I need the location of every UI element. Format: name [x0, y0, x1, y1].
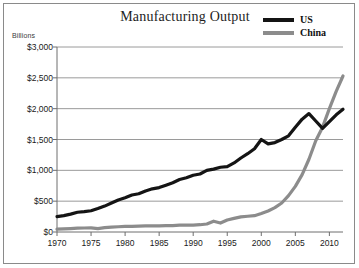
y-axis-units-label: Billions	[12, 32, 35, 39]
y-tick-label: $1,000	[27, 165, 53, 175]
legend-entry-china: China	[263, 26, 355, 39]
x-tick-label: 1970	[48, 238, 67, 248]
legend-swatch-us	[263, 18, 294, 22]
y-tick-label: $0	[44, 227, 53, 237]
x-tick-label: 2005	[286, 238, 305, 248]
x-tick-label: 1985	[150, 238, 169, 248]
series-line-us	[57, 109, 343, 216]
chart-figure: Manufacturing Output Billions US China $…	[0, 0, 359, 268]
legend-label-china: China	[300, 28, 326, 38]
legend-swatch-china	[263, 31, 294, 35]
x-axis-tick-labels: 197019751980198519901995200020052010	[57, 238, 343, 252]
y-tick-label: $1,500	[27, 135, 53, 145]
x-tick-label: 2010	[320, 238, 339, 248]
y-tick-label: $2,500	[27, 73, 53, 83]
series-lines	[57, 76, 343, 229]
x-tick-label: 1995	[218, 238, 237, 248]
y-tick-label: $3,000	[27, 42, 53, 52]
y-tick-label: $500	[34, 196, 53, 206]
chart-legend: US China	[263, 13, 355, 39]
x-tick-label: 2000	[252, 238, 271, 248]
x-tick-label: 1990	[184, 238, 203, 248]
legend-entry-us: US	[263, 13, 355, 26]
y-axis-tick-labels: $0$500$1,000$1,500$2,000$2,500$3,000	[4, 47, 53, 232]
plot-area	[57, 47, 343, 232]
x-tick-label: 1980	[116, 238, 135, 248]
plot-canvas	[57, 47, 343, 232]
chart-title: Manufacturing Output	[110, 9, 260, 25]
x-tick-label: 1975	[82, 238, 101, 248]
legend-label-us: US	[300, 15, 313, 25]
y-tick-label: $2,000	[27, 104, 53, 114]
